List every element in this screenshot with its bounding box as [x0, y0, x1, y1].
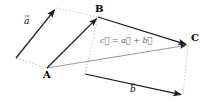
label-point-b: B — [95, 4, 103, 14]
label-point-a: A — [43, 70, 51, 80]
arrow-vector-a-free — [16, 10, 55, 58]
vector-a-text: a — [24, 16, 29, 26]
label-equation-c-equals-a-plus-b: c⃗ = a⃗ + b⃗ — [100, 37, 152, 45]
label-point-c: C — [191, 33, 199, 43]
arrow-vector-c-resultant — [47, 46, 186, 69]
dotted-construction-lines — [16, 8, 188, 95]
dotted-line-a-tip-to-B — [56, 8, 98, 17]
label-vector-a: → a — [24, 14, 29, 26]
label-vector-b: → b — [130, 82, 136, 94]
dotted-line-B-to-b-tail — [85, 17, 98, 74]
dotted-line-C-to-b-tip — [183, 45, 188, 95]
dotted-line-a-tail-to-A — [16, 58, 47, 68]
vector-b-text: b — [130, 84, 136, 94]
arrow-vector-a-at-A — [47, 19, 97, 68]
vector-diagram-canvas — [0, 0, 210, 107]
